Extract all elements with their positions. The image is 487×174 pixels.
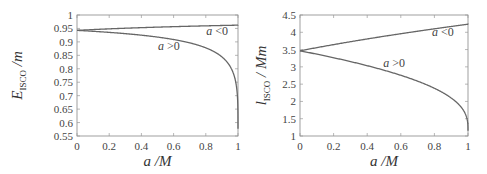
y-tick-label: 0.85 bbox=[54, 49, 74, 61]
curve-annotation: a <0 bbox=[432, 25, 454, 39]
x-tick-label: 0.6 bbox=[394, 140, 408, 152]
chart-canvas: 00.20.40.60.810.550.60.650.70.750.80.850… bbox=[0, 0, 487, 174]
y-tick-label: 0.55 bbox=[54, 130, 74, 142]
y-axis-label: EISCO /m bbox=[9, 51, 28, 101]
curve-annotation: a >0 bbox=[158, 39, 180, 53]
x-tick-label: 0.4 bbox=[135, 140, 149, 152]
y-tick-label: 3.5 bbox=[282, 44, 296, 56]
x-axis-label: a /M bbox=[370, 153, 399, 169]
y-tick-label: 0.65 bbox=[54, 103, 74, 115]
y-tick-label: 0.75 bbox=[54, 76, 74, 88]
y-tick-label: 2.5 bbox=[282, 78, 296, 90]
y-tick-label: 1.5 bbox=[282, 113, 296, 125]
angular-momentum-isco-plot: 00.20.40.60.8111.522.533.544.5a <0a >0a … bbox=[253, 9, 471, 169]
y-tick-label: 0.7 bbox=[59, 90, 73, 102]
x-tick-label: 0 bbox=[297, 140, 303, 152]
y-tick-label: 1 bbox=[291, 130, 297, 142]
y-tick-label: 0.95 bbox=[54, 22, 74, 34]
x-tick-label: 0.6 bbox=[167, 140, 181, 152]
x-axis-label: a /M bbox=[144, 153, 173, 169]
x-tick-label: 0.2 bbox=[327, 140, 341, 152]
y-tick-label: 0.6 bbox=[59, 117, 73, 129]
x-tick-label: 1 bbox=[235, 140, 241, 152]
y-tick-label: 4 bbox=[291, 26, 297, 38]
x-tick-label: 0 bbox=[74, 140, 80, 152]
x-tick-label: 0.4 bbox=[360, 140, 374, 152]
y-tick-label: 3 bbox=[291, 61, 297, 73]
x-tick-label: 0.8 bbox=[428, 140, 442, 152]
energy-isco-plot: 00.20.40.60.810.550.60.650.70.750.80.850… bbox=[9, 9, 241, 169]
y-tick-label: 0.9 bbox=[59, 36, 73, 48]
curve-annotation: a >0 bbox=[383, 56, 405, 70]
y-tick-label: 4.5 bbox=[282, 9, 296, 21]
y-tick-label: 1 bbox=[68, 9, 74, 21]
x-tick-label: 0.8 bbox=[199, 140, 213, 152]
curve-annotation: a <0 bbox=[206, 24, 228, 38]
x-tick-label: 1 bbox=[465, 140, 471, 152]
x-tick-label: 0.2 bbox=[102, 140, 116, 152]
y-tick-label: 0.8 bbox=[59, 63, 73, 75]
y-tick-label: 2 bbox=[291, 95, 297, 107]
y-axis-label: lISCO / Mm bbox=[253, 45, 272, 105]
